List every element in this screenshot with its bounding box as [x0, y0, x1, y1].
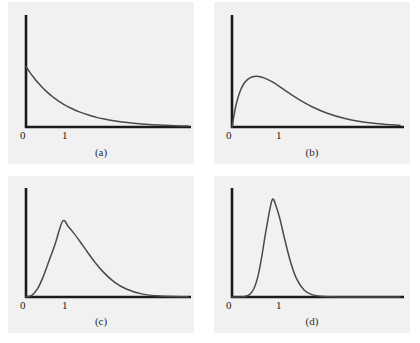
chart-svg-b — [214, 2, 410, 164]
xtick-label-1: 1 — [62, 299, 68, 311]
xtick-label-0: 0 — [20, 129, 26, 141]
chart-svg-c — [8, 176, 194, 333]
density-curve-c — [26, 220, 188, 297]
panel-caption-a: (a) — [8, 146, 194, 158]
chart-svg-d — [214, 176, 410, 333]
chart-panel-b: 0 1 (b) — [214, 2, 410, 164]
xtick-label-0: 0 — [226, 129, 232, 141]
density-curve-b — [232, 76, 400, 127]
xtick-label-1: 1 — [62, 129, 68, 141]
panel-caption-d: (d) — [214, 315, 410, 327]
xtick-label-0: 0 — [20, 299, 26, 311]
chart-panel-d: 0 1 (d) — [214, 176, 410, 333]
axes-c — [25, 188, 191, 298]
xtick-label-0: 0 — [226, 299, 232, 311]
chart-panel-c: 0 1 (c) — [8, 176, 194, 333]
chart-panel-a: 0 1 (a) — [8, 2, 194, 164]
density-curve-d — [232, 199, 400, 297]
panel-caption-c: (c) — [8, 315, 194, 327]
xtick-label-1: 1 — [276, 299, 282, 311]
axes-b — [231, 15, 404, 128]
axes-a — [25, 15, 191, 128]
density-curve-a — [26, 67, 188, 127]
chart-svg-a — [8, 2, 194, 164]
figure-panel-grid: 0 1 (a) 0 1 (b) 0 1 (c) — [0, 0, 420, 343]
xtick-label-1: 1 — [276, 129, 282, 141]
panel-caption-b: (b) — [214, 146, 410, 158]
